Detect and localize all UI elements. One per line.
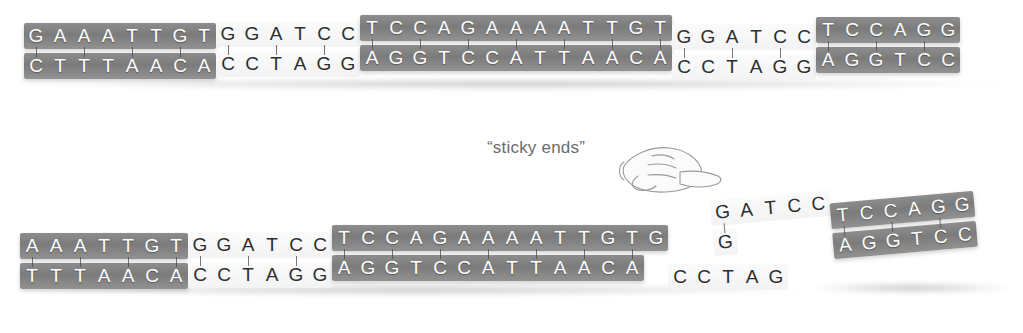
base-T: T [816, 17, 840, 43]
top-strand-u3: TCCAGAAAATTGT [360, 15, 672, 41]
dna-segment-r2: TCCAGGAGGTCC [830, 191, 979, 265]
base-C: C [768, 24, 792, 50]
base-A: A [552, 15, 576, 41]
base-C: C [781, 192, 807, 220]
base-A: A [720, 24, 744, 50]
base-C: C [792, 24, 816, 50]
base-T: T [757, 194, 783, 222]
base-T: T [600, 15, 624, 41]
base-C: C [284, 232, 308, 258]
base-G: G [644, 225, 668, 251]
base-G: G [188, 232, 212, 258]
top-strand-c3: TCCAGAAAATTGTG [332, 225, 668, 251]
base-G: G [168, 23, 192, 49]
base-T: T [620, 225, 644, 251]
top-strand-u1: GAAATTGT [24, 23, 216, 49]
dna-segment-c1: AAATTGTTTTAACA [20, 233, 188, 295]
dna-segment-u1: GAAATTGTCTTTAACA [24, 23, 216, 85]
base-A: A [72, 23, 96, 49]
base-G: G [596, 225, 620, 251]
base-A: A [476, 225, 500, 251]
hydrogen-bonds-c3 [332, 249, 644, 259]
base-T: T [92, 233, 116, 259]
hydrogen-bonds-u5 [816, 41, 960, 51]
base-T: T [332, 225, 356, 251]
base-C: C [840, 17, 864, 43]
base-T: T [120, 23, 144, 49]
base-A: A [452, 225, 476, 251]
dna-segment-u5: TCCAGGAGGTCC [816, 17, 960, 79]
base-A: A [96, 23, 120, 49]
base-G: G [936, 17, 960, 43]
base-T: T [648, 15, 672, 41]
base-C: C [308, 232, 332, 258]
base-A: A [733, 196, 759, 224]
base-G: G [140, 233, 164, 259]
base-T: T [576, 15, 600, 41]
base-A: A [236, 232, 260, 258]
base-G: G [624, 15, 648, 41]
pointing-hand-icon [608, 132, 726, 206]
dna-segment-r1: GATCCG [710, 190, 835, 262]
base-T: T [144, 23, 168, 49]
base-A: A [528, 15, 552, 41]
top-strand-r1: GATCC [710, 190, 832, 226]
base-A: A [480, 15, 504, 41]
base-G: G [428, 225, 452, 251]
base-C: C [336, 21, 360, 47]
base-C: C [356, 225, 380, 251]
base-A: A [48, 23, 72, 49]
base-G: G [24, 23, 48, 49]
uncut-dna-duplex: GAAATTGTCTTTAACAGGATCCCCTAGGTCCAGAAAATTG… [24, 14, 1009, 82]
top-strand-u2: GGATCC [216, 21, 360, 47]
hydrogen-bonds-u4 [672, 48, 816, 58]
hydrogen-bonds-u2 [216, 45, 360, 55]
base-C: C [384, 15, 408, 41]
sticky-ends-label: “sticky ends” [487, 138, 585, 158]
base-A: A [500, 225, 524, 251]
base-G: G [456, 15, 480, 41]
base-T: T [744, 24, 768, 50]
base-A: A [888, 17, 912, 43]
base-G: G [912, 17, 936, 43]
hydrogen-bonds-u1 [24, 47, 216, 57]
base-A: A [504, 15, 528, 41]
dna-segment-c2: GGATCCCCTAGG [188, 232, 332, 294]
base-C: C [864, 17, 888, 43]
top-strand-c1: AAATTGT [20, 233, 188, 259]
base-C: C [380, 225, 404, 251]
base-C: C [805, 190, 831, 218]
base-G: G [212, 232, 236, 258]
base-G: G [240, 21, 264, 47]
dna-segment-c3: TCCAGAAAATTGTGAGGTCCATTAACA [332, 225, 668, 287]
base-T: T [116, 233, 140, 259]
hydrogen-bonds-c1 [20, 257, 188, 267]
dna-segment-u2: GGATCCCCTAGG [216, 21, 360, 83]
base-A: A [524, 225, 548, 251]
top-strand-u4: GGATCC [672, 24, 816, 50]
right-fragment-shadow [812, 282, 1012, 294]
base-C: C [408, 15, 432, 41]
dna-segment-u3: TCCAGAAAATTGTAGGTCCATTAACA [360, 15, 672, 77]
cut-right-fragment: GATCCGTCCAGGAGGTCC [712, 188, 1012, 278]
hydrogen-bonds-u3 [360, 39, 672, 49]
base-T: T [192, 23, 216, 49]
base-T: T [548, 225, 572, 251]
cut-left-fragment: AAATTGTTTTAACAGGATCCCCTAGGTCCAGAAAATTGTG… [20, 222, 820, 290]
base-T: T [260, 232, 284, 258]
dna-segment-u4: GGATCCCCTAGG [672, 24, 816, 86]
base-T: T [288, 21, 312, 47]
base-G: G [216, 21, 240, 47]
base-T: T [164, 233, 188, 259]
base-A: A [68, 233, 92, 259]
base-G: G [672, 24, 696, 50]
base-C: C [312, 21, 336, 47]
base-A: A [432, 15, 456, 41]
hydrogen-bonds-c2 [188, 256, 332, 266]
top-strand-u5: TCCAGG [816, 17, 960, 43]
hydrogen-bonds-r1 [712, 222, 737, 234]
base-T: T [360, 15, 384, 41]
base-A: A [44, 233, 68, 259]
base-G: G [696, 24, 720, 50]
dna-sticky-ends-figure: GAAATTGTCTTTAACAGGATCCCCTAGGTCCAGAAAATTG… [0, 0, 1023, 333]
